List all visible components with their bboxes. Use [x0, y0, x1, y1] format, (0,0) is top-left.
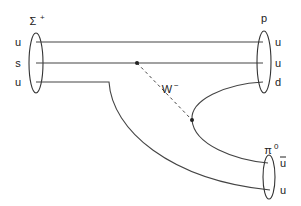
sigma-plus-hadron: Σ + u s u: [15, 13, 45, 93]
pion-quark-label: u: [280, 184, 286, 196]
pion-label: π: [264, 144, 272, 156]
quark-line-u-bottom-to-pion: [36, 82, 270, 190]
w-boson-label: W: [162, 83, 173, 95]
sigma-plus-charge: +: [40, 13, 45, 22]
feynman-diagram: Σ + u s u W − p u u d π 0 u u: [0, 0, 301, 206]
pion-charge: 0: [274, 142, 279, 151]
quark-line-d-ubar-pair: [192, 82, 268, 163]
sigma-plus-label: Σ: [30, 15, 37, 27]
sigma-quark-label-1: u: [15, 36, 21, 48]
proton-quark-label-2: u: [275, 57, 281, 69]
w-boson: W −: [135, 61, 194, 122]
proton-quark-label-3: d: [275, 76, 281, 88]
proton-label: p: [261, 12, 267, 24]
pion-antiquark-label: u: [280, 157, 286, 169]
sigma-quark-label-2: s: [15, 57, 21, 69]
proton-ellipse: [257, 31, 271, 93]
proton-hadron: p u u d: [257, 12, 281, 93]
w-boson-charge: −: [174, 81, 179, 90]
quark-lines: [36, 42, 270, 190]
pion-ellipse: [263, 155, 275, 199]
pion-hadron: π 0 u u: [263, 142, 286, 199]
vertex-lower: [190, 118, 194, 122]
vertex-upper: [135, 61, 139, 65]
proton-quark-label-1: u: [275, 36, 281, 48]
sigma-quark-label-3: u: [15, 76, 21, 88]
